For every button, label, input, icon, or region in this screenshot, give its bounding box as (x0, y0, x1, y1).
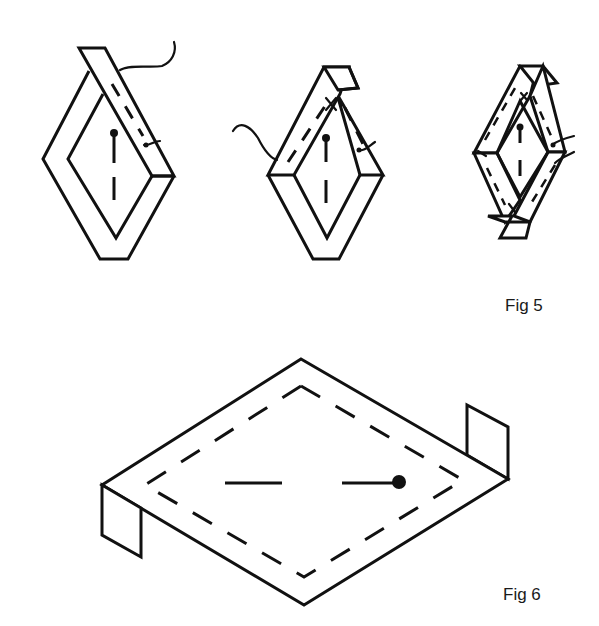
step2-pin-head (322, 134, 330, 142)
step2-right-strip (337, 94, 383, 175)
fig6-diamond (102, 359, 508, 605)
step3-top-left-strip (474, 66, 536, 153)
fig5-step3 (474, 66, 574, 238)
step2-knot (357, 148, 362, 153)
fig6-pin-head (392, 475, 406, 489)
step1-knot (144, 143, 149, 148)
step2-left-thread (233, 125, 277, 160)
fig5-step2 (233, 67, 383, 259)
step1-pin-head (110, 129, 118, 137)
fig5-label: Fig 5 (505, 296, 543, 316)
fig6 (102, 359, 508, 605)
step3-knot-1 (551, 143, 556, 148)
step3-bottom-right-strip (514, 152, 565, 222)
fig5-step1 (43, 42, 175, 259)
step1-thread (120, 42, 175, 70)
step3-pin-head (517, 124, 524, 131)
fig6-label: Fig 6 (503, 585, 541, 605)
